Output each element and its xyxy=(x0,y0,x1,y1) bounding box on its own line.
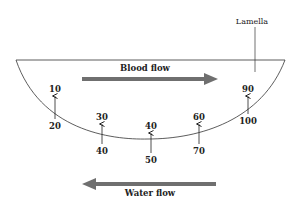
blood-flow-arrow xyxy=(82,73,218,85)
blood-value: 40 xyxy=(145,121,157,131)
blood-flow-arrowhead xyxy=(204,73,218,85)
water-value: 40 xyxy=(96,146,108,156)
water-flow-arrow-shaft xyxy=(94,182,216,186)
lamella-label: Lamella xyxy=(236,17,269,26)
water-value: 100 xyxy=(239,116,257,126)
exchange-point: 30 40 xyxy=(96,112,108,156)
exchange-point: 10 20 xyxy=(49,84,61,131)
blood-flow-arrow-shaft xyxy=(82,77,206,81)
water-value: 50 xyxy=(145,155,157,165)
blood-value: 30 xyxy=(96,112,108,122)
exchange-point: 40 50 xyxy=(145,121,157,165)
water-flow-label: Water flow xyxy=(124,188,176,198)
blood-value: 90 xyxy=(242,84,254,94)
water-value: 20 xyxy=(49,121,61,131)
blood-value: 60 xyxy=(193,112,205,122)
water-flow-arrowhead xyxy=(82,178,96,190)
blood-flow-label: Blood flow xyxy=(120,63,171,73)
water-value: 70 xyxy=(193,146,205,156)
countercurrent-diagram: Lamella Blood flow Water flow 10 20 30 4… xyxy=(0,0,298,205)
blood-value: 10 xyxy=(49,84,61,94)
exchange-point: 90 100 xyxy=(239,84,257,126)
